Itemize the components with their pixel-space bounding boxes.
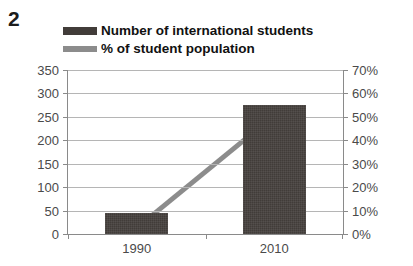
figure-number: 2 — [8, 8, 20, 29]
y-axis-label-left: 150 — [37, 156, 59, 171]
gridline — [68, 70, 343, 71]
y-axis-label-right: 10% — [352, 203, 378, 218]
y-axis-tick-left — [63, 117, 68, 118]
bar-swatch-icon — [63, 27, 97, 35]
x-axis-tick — [68, 234, 69, 239]
bar — [105, 213, 168, 234]
y-axis-label-right: 40% — [352, 133, 378, 148]
y-axis-tick-left — [63, 70, 68, 71]
y-axis-tick-left — [63, 93, 68, 94]
y-axis-tick-right — [343, 164, 348, 165]
y-axis-label-left: 100 — [37, 180, 59, 195]
chart-legend: Number of international students % of st… — [63, 22, 393, 58]
legend-item-bars: Number of international students — [63, 22, 393, 40]
y-axis-tick-right — [343, 70, 348, 71]
y-axis-label-left: 350 — [37, 63, 59, 78]
y-axis-label-right: 0% — [352, 227, 371, 242]
bar — [243, 105, 306, 234]
y-axis-label-left: 300 — [37, 86, 59, 101]
y-axis-tick-right — [343, 117, 348, 118]
y-axis-label-left: 0 — [52, 227, 59, 242]
y-axis-label-right: 60% — [352, 86, 378, 101]
y-axis-tick-right — [343, 140, 348, 141]
y-axis-tick-left — [63, 140, 68, 141]
y-axis-label-right: 50% — [352, 109, 378, 124]
plot-area: 0501001502002503003500%10%20%30%40%50%60… — [67, 70, 344, 235]
y-axis-tick-right — [343, 211, 348, 212]
y-axis-tick-left — [63, 187, 68, 188]
y-axis-tick-right — [343, 93, 348, 94]
y-axis-label-right: 20% — [352, 180, 378, 195]
y-axis-tick-right — [343, 187, 348, 188]
y-axis-tick-right — [343, 234, 348, 235]
x-axis-category-label: 2010 — [260, 241, 289, 256]
y-axis-label-left: 200 — [37, 133, 59, 148]
legend-item-line: % of student population — [63, 40, 393, 58]
chart-area: 0501001502002503003500%10%20%30%40%50%60… — [0, 62, 413, 266]
legend-item-label: % of student population — [101, 42, 255, 56]
legend-item-label: Number of international students — [101, 24, 313, 38]
y-axis-label-left: 250 — [37, 109, 59, 124]
line-swatch-icon — [63, 46, 97, 52]
x-axis-tick — [342, 234, 343, 239]
y-axis-label-right: 70% — [352, 63, 378, 78]
y-axis-label-left: 50 — [45, 203, 59, 218]
x-axis-category-label: 1990 — [122, 241, 151, 256]
y-axis-tick-left — [63, 211, 68, 212]
x-axis-tick — [206, 234, 207, 239]
y-axis-tick-left — [63, 164, 68, 165]
y-axis-label-right: 30% — [352, 156, 378, 171]
gridline — [68, 93, 343, 94]
